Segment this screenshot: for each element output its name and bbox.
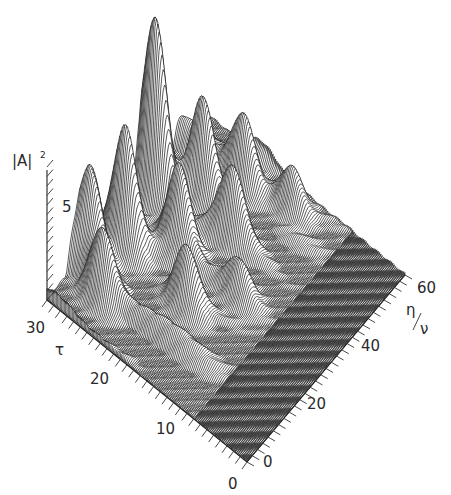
axis-tick	[122, 365, 127, 372]
axis-tick	[331, 362, 338, 366]
axis-tick	[289, 412, 296, 416]
axis-tick	[363, 325, 370, 329]
axis-tick	[202, 430, 207, 437]
axis-tick	[321, 375, 328, 379]
tau-axis-label: τ	[55, 341, 64, 359]
axis-tick	[189, 419, 194, 426]
axis-tick	[47, 208, 53, 215]
axis-tick	[373, 312, 380, 316]
axis-tick	[47, 274, 53, 281]
axis-tick	[342, 350, 349, 354]
axis-tick	[384, 300, 391, 304]
axis-tick	[195, 424, 200, 431]
axis-tick	[182, 413, 187, 420]
eta-tick-label-20: 20	[307, 395, 326, 413]
axis-tick	[310, 387, 317, 391]
axis-tick	[347, 344, 354, 348]
axis-tick	[162, 397, 167, 404]
axis-tick	[268, 437, 275, 441]
axis-tick	[279, 425, 286, 429]
waterfall-surface	[47, 17, 405, 462]
axis-tick	[47, 255, 53, 262]
axis-tick	[247, 462, 254, 466]
axis-tick	[49, 305, 54, 312]
axis-tick	[47, 227, 53, 234]
axis-tick	[326, 369, 333, 373]
eta-tick-label-0: 0	[263, 453, 273, 471]
axis-tick	[405, 275, 412, 279]
axis-tick	[89, 338, 94, 345]
tau-tick-label-0: 0	[228, 475, 238, 493]
z-axis-label: |A|	[12, 152, 32, 170]
axis-tick	[215, 440, 220, 447]
axis-tick	[47, 189, 53, 196]
axis-tick	[47, 198, 53, 205]
tau-tick-label-10: 10	[156, 420, 175, 438]
axis-tick	[42, 300, 47, 307]
axis-tick	[400, 281, 407, 285]
axis-tick	[252, 456, 259, 460]
axis-tick	[222, 446, 227, 453]
axis-tick	[129, 370, 134, 377]
axis-tick	[284, 418, 291, 422]
axis-tick	[82, 332, 87, 339]
axis-tick	[109, 354, 114, 361]
axis-tick	[242, 462, 247, 469]
z-axis: 5 |A| 2	[12, 150, 72, 300]
axis-tick	[389, 294, 396, 298]
axis-tick	[55, 311, 60, 318]
axis-tick	[368, 319, 375, 323]
axis-tick	[142, 381, 147, 388]
tau-tick-label-30: 30	[26, 319, 45, 337]
eta-axis-label-numerator: η	[406, 301, 416, 319]
axis-tick	[47, 246, 53, 253]
axis-tick	[169, 403, 174, 410]
axis-tick	[209, 435, 214, 442]
axis-tick	[155, 392, 160, 399]
axis-tick	[300, 400, 307, 404]
axis-tick	[102, 349, 107, 356]
surface-plot: 5 |A| 2 0 10 20 30 τ 0 20 40 60 η ν	[0, 0, 451, 495]
axis-tick	[358, 331, 365, 335]
z-axis-label-superscript: 2	[40, 150, 46, 160]
axis-tick	[115, 359, 120, 366]
axis-tick	[229, 451, 234, 458]
eta-axis-label-denominator: ν	[420, 320, 428, 338]
axis-tick	[149, 386, 154, 393]
axis-tick	[273, 431, 280, 435]
axis-tick	[135, 376, 140, 383]
axis-tick	[175, 408, 180, 415]
axis-tick	[379, 306, 386, 310]
axis-tick	[95, 343, 100, 350]
axis-tick	[352, 337, 359, 341]
axis-tick	[47, 179, 53, 186]
axis-tick	[47, 160, 53, 167]
eta-tick-label-40: 40	[361, 337, 380, 355]
axis-tick	[263, 443, 270, 447]
axis-tick	[47, 236, 53, 243]
axis-tick	[47, 170, 53, 177]
axis-tick	[75, 327, 80, 334]
axis-tick	[315, 381, 322, 385]
axis-tick	[294, 406, 301, 410]
axis-tick	[337, 356, 344, 360]
axis-tick	[235, 457, 240, 464]
eta-tick-label-60: 60	[417, 279, 436, 297]
z-tick-label: 5	[62, 198, 72, 216]
axis-tick	[62, 316, 67, 323]
tau-tick-label-20: 20	[90, 370, 109, 388]
axis-tick	[69, 322, 74, 329]
axis-tick	[394, 287, 401, 291]
axis-tick	[47, 217, 53, 224]
axis-tick	[47, 265, 53, 272]
